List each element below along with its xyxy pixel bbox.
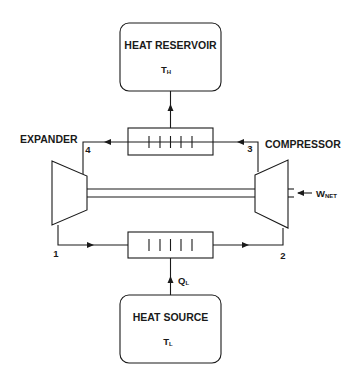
expander: EXPANDER [20,133,87,225]
heat-rejection-line [168,91,174,128]
state-point-2: 2 [280,250,285,261]
heat-source: HEAT SOURCE TL [120,295,221,363]
heat-reservoir-box [120,23,221,91]
expander-label: EXPANDER [20,133,78,145]
heat-input-label: QL [178,275,189,286]
compressor: COMPRESSOR [255,138,341,228]
cycle-diagram: HEAT RESERVOIR TH EXPANDER COMPRESSOR [0,0,356,386]
heat-reservoir-title: HEAT RESERVOIR [124,39,217,51]
state-point-1: 1 [53,248,59,259]
arrow-left-icon [104,139,111,145]
compressor-label: COMPRESSOR [265,138,341,150]
heat-source-box [120,295,221,363]
compressor-shape [255,160,288,228]
net-work-label: WNET [316,188,337,199]
arrow-right-icon [242,242,249,248]
state-point-4: 4 [85,144,91,155]
bottom-heat-exchanger [128,232,213,258]
heat-reservoir: HEAT RESERVOIR TH [120,23,221,91]
net-work-input: WNET [297,188,337,199]
expander-shape [52,161,87,225]
heat-source-title: HEAT SOURCE [133,311,209,323]
arrow-up-icon [168,276,174,283]
state-point-3: 3 [247,143,252,154]
arrow-right-icon [87,242,94,248]
heat-input-line: QL [168,258,190,295]
arrow-up-icon [168,104,174,111]
arrow-left-icon [297,190,304,196]
arrow-left-icon [237,139,244,145]
